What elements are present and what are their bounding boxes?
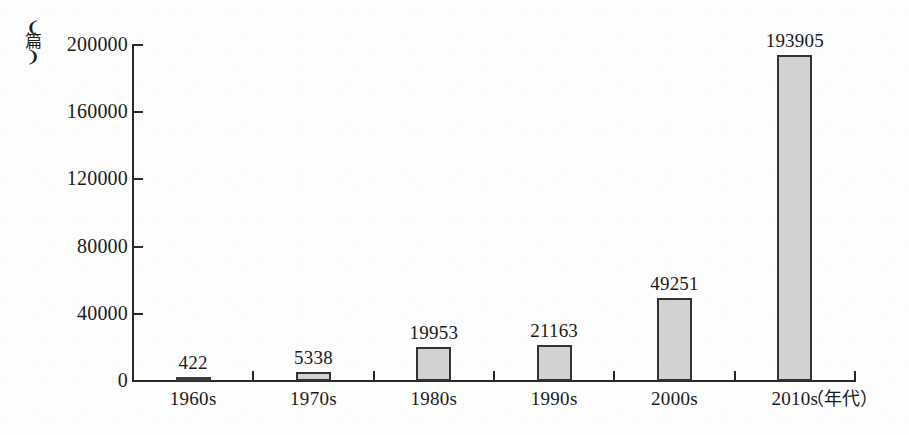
x-axis-category-label: 1970s	[259, 388, 369, 410]
y-axis-tick	[134, 111, 143, 113]
y-axis-tick-label: 200000	[10, 34, 128, 54]
y-axis-tick	[134, 246, 143, 248]
x-axis-tick	[734, 371, 736, 381]
bar-value-label: 19953	[364, 323, 504, 343]
bar	[777, 55, 812, 381]
bar	[416, 347, 451, 381]
y-axis-tick	[134, 178, 143, 180]
y-axis-tick	[134, 313, 143, 315]
x-axis-category-label: 1980s	[379, 388, 489, 410]
x-axis-tick	[854, 371, 856, 381]
bar-chart: ( 篇 ) 040000800001200001600002000001960s…	[0, 0, 909, 435]
x-axis-category-label: 2000s	[620, 388, 730, 410]
y-axis-tick	[134, 44, 143, 46]
bar-value-label: 193905	[725, 31, 865, 51]
bar-value-label: 21163	[484, 321, 624, 341]
x-axis-unit-label: （年代）	[806, 388, 878, 410]
y-axis-line	[132, 44, 134, 382]
y-unit-paren-open: (	[5, 22, 62, 32]
bar	[657, 298, 692, 381]
y-axis-tick-label: 0	[10, 370, 128, 390]
x-axis-tick	[493, 371, 495, 381]
x-axis-tick	[373, 371, 375, 381]
y-axis-tick-label: 80000	[10, 236, 128, 256]
bar	[176, 377, 211, 381]
bar-value-label: 422	[123, 353, 263, 373]
y-axis-tick-label: 40000	[10, 303, 128, 323]
y-axis-tick-label: 160000	[10, 101, 128, 121]
x-axis-tick	[613, 371, 615, 381]
x-axis-category-label: 1990s	[499, 388, 609, 410]
bar	[296, 372, 331, 381]
bar	[537, 345, 572, 381]
x-axis-category-label: 1960s	[138, 388, 248, 410]
bar-value-label: 5338	[244, 348, 384, 368]
bar-value-label: 49251	[605, 274, 745, 294]
y-axis-tick-label: 120000	[10, 168, 128, 188]
